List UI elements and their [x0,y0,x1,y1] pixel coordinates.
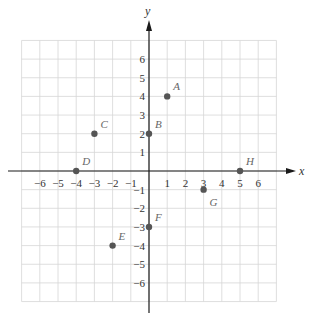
point-label-e: E [118,230,126,242]
point-c [91,131,97,137]
x-axis-arrow-icon [286,168,296,174]
x-tick-label: −6 [34,177,46,189]
x-tick-label: −5 [52,177,64,189]
y-tick-label: −2 [133,202,145,214]
point-d [73,168,79,174]
y-tick-label: 5 [140,72,146,84]
y-tick-label: −3 [133,221,145,233]
point-label-f: F [154,211,162,223]
y-axis-arrow-icon [146,20,152,31]
y-tick-label: 6 [140,53,146,65]
x-tick-label: 1 [164,177,170,189]
x-tick-label: 2 [183,177,189,189]
x-tick-label: −4 [70,177,82,189]
points: ABCDEFGH [73,80,255,248]
y-tick-label: 3 [140,109,146,121]
y-tick-label: −1 [133,184,145,196]
y-tick-label: 4 [140,90,146,102]
x-tick-label: −3 [89,177,101,189]
y-axis-title: y [144,4,151,18]
point-label-c: C [100,118,108,130]
x-tick-label: −2 [107,177,119,189]
point-h [237,168,243,174]
point-e [109,242,115,248]
y-tick-label: 1 [140,146,146,158]
point-label-h: H [245,155,255,167]
point-label-a: A [172,80,180,92]
y-tick-label: −4 [133,240,145,252]
x-tick-label: 5 [237,177,243,189]
x-tick-label: 6 [255,177,261,189]
y-tick-label: 2 [140,128,146,140]
y-tick-label: −6 [133,277,145,289]
point-f [146,224,152,230]
point-a [164,93,170,99]
coordinate-plane: x y −6−5−4−3−2−1123456−6−5−4−3−2−1123456… [0,0,313,316]
y-tick-label: −5 [133,258,145,270]
x-tick-label: 4 [219,177,225,189]
point-g [200,186,206,192]
point-label-b: B [155,118,162,130]
point-b [146,131,152,137]
axes: x y [8,4,305,313]
x-axis-title: x [298,164,305,178]
point-label-d: D [81,155,90,167]
point-label-g: G [210,196,218,208]
